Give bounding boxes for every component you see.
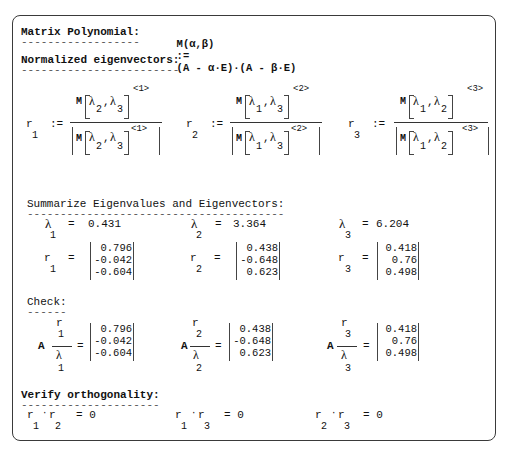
dot-operator: · [331,408,336,418]
var-index: 1 [58,329,64,340]
lambda-index: 1 [58,363,64,374]
comma: , [103,132,110,144]
equals: = [362,252,369,264]
vector-entry: 0.796 [92,323,132,335]
var-index: 1 [50,264,56,275]
polynomial-rhs: (A - α·E)·(A - β·E) [177,62,297,74]
dot-operator: · [191,408,196,418]
equals: = [363,340,370,352]
matrix-A: A [181,340,188,352]
vector-entry: 0.796 [92,242,132,254]
var: r [44,252,51,264]
lambda-index: 2 [441,141,447,152]
var-index: 1 [181,421,187,432]
var: r [348,118,355,130]
var: r [186,118,193,130]
vector-entry: -0.604 [92,266,132,278]
assign-operator: := [372,118,385,130]
vector-values: 0.438 -0.648 0.623 [238,242,278,278]
equals: = [362,218,369,230]
lambda: λ [89,130,95,145]
lambda-index: 1 [420,104,426,115]
var: r [27,409,34,421]
lambda-index: 1 [50,230,56,241]
lambda-index: 1 [256,104,262,115]
lambda-index: 3 [117,141,123,152]
var-index: 2 [192,130,198,141]
lambda-index: 3 [345,363,351,374]
lambda: λ [434,94,440,109]
lambda: λ [341,348,347,363]
lambda: λ [89,94,95,109]
equals: = [68,218,75,230]
equals: = [214,252,221,264]
column-index: <2> [293,84,309,94]
var-index: 2 [321,421,327,432]
vector-entry: -0.648 [238,254,278,266]
polynomial-definition: M(α,β) := (A - α·E)·(A - β·E) [164,26,296,74]
assign-operator: := [210,118,223,130]
lambda-index: 1 [256,141,262,152]
normalized-eigenvectors-underline: ------------------------ [21,64,179,76]
vector-entry: 0.418 [379,242,417,254]
lambda: λ [56,348,62,363]
var-index: 3 [354,130,360,141]
comma: , [427,96,434,108]
M-func: M [76,96,82,107]
lambda-index: 3 [117,104,123,115]
vector-values: 0.796 -0.042 -0.604 [92,242,132,278]
lambda: λ [413,94,419,109]
lambda-index: 3 [345,230,351,241]
var: r [338,409,345,421]
column-index: <3> [467,84,483,94]
var: r [26,118,33,130]
equals: = [215,218,222,230]
lambda-index: 3 [277,141,283,152]
matrix-polynomial-underline: ------------------ [21,36,140,48]
var-index: 3 [344,421,350,432]
var: r [198,409,205,421]
var: r [49,409,56,421]
vector-entry: -0.042 [92,254,132,266]
var: r [190,252,197,264]
var-index: 1 [33,421,39,432]
column-index: <1> [133,84,149,94]
lambda: λ [110,130,116,145]
vector-values: 0.796 -0.042 -0.604 [92,323,132,359]
var-index: 3 [345,329,351,340]
var-index: 2 [196,329,202,340]
lambda-index: 2 [196,363,202,374]
lambda: λ [270,94,276,109]
vector-values: 0.418 0.76 0.498 [379,242,417,278]
lambda: λ [110,94,116,109]
lambda-index: 2 [441,104,447,115]
vector-entry: 0.438 [238,242,278,254]
vector-entry: 0.418 [379,323,417,335]
var: r [56,317,63,329]
var-index: 2 [55,421,61,432]
comma: , [427,132,434,144]
lambda-index: 2 [96,141,102,152]
column-index: <2> [291,124,307,134]
var: r [192,317,199,329]
vector-entry: -0.604 [92,347,132,359]
var-index: 1 [32,130,38,141]
eigenvalue-value: 0.431 [88,218,121,230]
lambda: λ [249,94,255,109]
lambda: λ [413,130,419,145]
lambda: λ [193,348,199,363]
var: r [315,409,322,421]
M-func: M [236,133,242,144]
M-func: M [400,96,406,107]
dot-product-result: = 0 [76,409,96,421]
dot-product-result: = 0 [224,409,244,421]
equals: = [68,252,75,264]
dot-product-result: = 0 [363,409,383,421]
vector-entry: -0.042 [92,335,132,347]
vector-entry: 0.623 [238,266,278,278]
vector-entry: -0.648 [231,335,271,347]
var: r [338,252,345,264]
vector-entry: 0.76 [379,335,417,347]
assign-operator: := [50,118,63,130]
equals: = [215,340,222,352]
